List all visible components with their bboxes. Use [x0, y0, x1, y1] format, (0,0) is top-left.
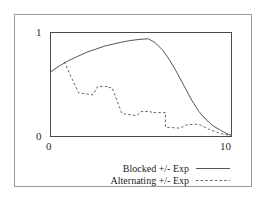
- plot-axes-frame: [51, 33, 232, 137]
- chart-legend: Blocked +/- Exp Alternating +/- Exp: [86, 163, 231, 187]
- legend-label-alternating: Alternating +/- Exp: [86, 175, 195, 186]
- x-axis-tick-label-right: 10: [220, 141, 231, 152]
- series-line-blocked: [51, 39, 232, 136]
- series-line-alternating: [64, 62, 231, 136]
- legend-label-blocked: Blocked +/- Exp: [86, 163, 195, 174]
- y-axis-tick-label-top: 1: [36, 27, 42, 38]
- legend-swatch-dashed-line: [195, 176, 231, 185]
- legend-swatch-solid-line: [195, 164, 231, 173]
- x-axis-tick-label-left: 0: [46, 141, 52, 152]
- legend-entry-alternating: Alternating +/- Exp: [86, 175, 231, 186]
- legend-entry-blocked: Blocked +/- Exp: [86, 163, 231, 174]
- chart-figure: 1 0 0 10 Blocked +/- Exp Alternating +/-…: [0, 0, 269, 200]
- y-axis-tick-label-bottom: 0: [36, 131, 42, 142]
